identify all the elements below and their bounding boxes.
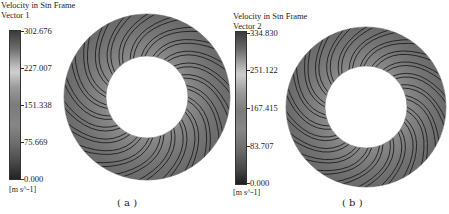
tick-b-4: 0.000 — [250, 179, 269, 188]
impeller-ring-a — [0, 0, 449, 214]
units-b: [m s^-1] — [233, 188, 260, 197]
tick-b-0: 334.830 — [250, 29, 278, 38]
tick-b-2: 167.415 — [250, 104, 278, 113]
colorbar-b — [235, 31, 247, 185]
tick-b-3: 83.707 — [250, 142, 273, 151]
caption-a: ( a ) — [117, 197, 137, 208]
caption-b: ( b ) — [342, 197, 363, 208]
tick-b-1: 251.122 — [250, 66, 278, 75]
legend-b-title: Velocity in Stn Frame — [233, 12, 307, 21]
